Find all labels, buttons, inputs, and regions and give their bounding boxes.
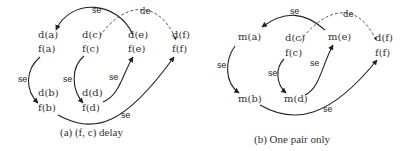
- edge-label-se: se: [323, 104, 332, 114]
- node-m-e: m(e): [328, 31, 351, 42]
- edge-label-se: se: [310, 58, 319, 68]
- node-f-a: f(a): [38, 43, 56, 54]
- edge-label-se: se: [217, 60, 226, 70]
- node-d-f: d(f): [172, 29, 190, 40]
- node-d-c: d(c): [285, 32, 305, 43]
- node-m-a: m(a): [238, 31, 261, 42]
- node-f-b: f(b): [38, 102, 56, 113]
- panel-b: se de se se se se m(a) d(c) f(c) m(e) d(…: [217, 6, 393, 146]
- edge-label-se: se: [109, 72, 118, 82]
- edge-label-se: se: [290, 6, 299, 16]
- edge-label-se: se: [92, 5, 101, 15]
- node-d-a: d(a): [38, 29, 58, 40]
- edge-ma-to-mb: [228, 46, 239, 93]
- edge-fc-to-md: [278, 59, 286, 93]
- node-f-d: f(d): [82, 102, 100, 113]
- node-d-d: d(d): [82, 87, 103, 98]
- edge-label-se: se: [268, 68, 277, 78]
- caption-a: (a) (f, c) delay: [60, 126, 123, 139]
- node-f-f: f(f): [375, 47, 390, 58]
- edge-label-de: de: [140, 6, 150, 16]
- caption-b: (b) One pair only: [254, 133, 331, 146]
- edge-label-de: de: [343, 9, 353, 19]
- node-f-f: f(f): [172, 43, 187, 54]
- node-f-e: f(e): [128, 43, 146, 54]
- edge-label-se: se: [63, 74, 72, 84]
- node-d-e: d(e): [128, 29, 148, 40]
- panel-a: se de se se se se d(a) f(a) d(c) f(c) d(…: [18, 5, 190, 139]
- node-f-c: f(c): [285, 47, 302, 58]
- node-m-b: m(b): [238, 93, 262, 104]
- edge-mb-to-ff: [260, 60, 377, 115]
- node-d-f: d(f): [375, 32, 393, 43]
- edge-label-se: se: [121, 110, 130, 120]
- node-f-c: f(c): [82, 43, 99, 54]
- node-d-c: d(c): [82, 29, 102, 40]
- edge-label-se: se: [18, 74, 27, 84]
- node-m-d: m(d): [284, 93, 308, 104]
- node-d-b: d(b): [38, 87, 59, 98]
- edge-md-to-me: [305, 45, 333, 95]
- diagram-canvas: se de se se se se d(a) f(a) d(c) f(c) d(…: [0, 0, 408, 151]
- edge-me-to-ma: [262, 15, 325, 30]
